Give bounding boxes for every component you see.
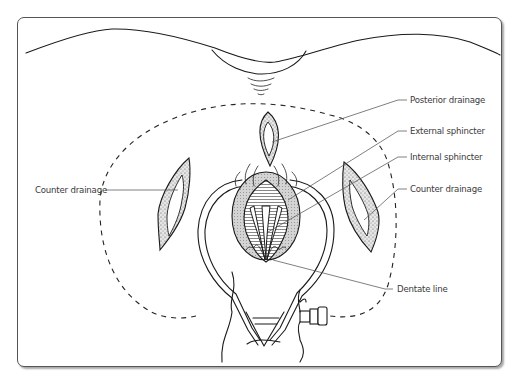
label-posterior-drainage: Posterior drainage xyxy=(410,95,485,105)
label-counter-drainage-right: Counter drainage xyxy=(410,184,482,194)
label-counter-drainage-left: Counter drainage xyxy=(35,185,107,195)
anal-canal xyxy=(232,164,300,262)
left-counter-drainage-incision xyxy=(158,158,190,250)
label-dentate-line: Dentate line xyxy=(397,284,447,294)
anatomy-diagram: Posterior drainage External sphincter In… xyxy=(0,0,527,382)
right-counter-drainage-incision xyxy=(343,162,379,252)
label-external-sphincter: External sphincter xyxy=(410,126,486,136)
buttock-contour xyxy=(26,29,500,95)
posterior-drainage-incision xyxy=(260,112,278,166)
label-internal-sphincter: Internal sphincter xyxy=(410,152,483,162)
